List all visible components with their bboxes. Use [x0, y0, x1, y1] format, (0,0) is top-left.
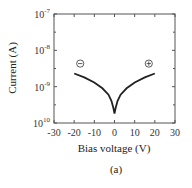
iv-chart: -30-20-100102030 10-710-810-91010 Bias v…: [0, 0, 192, 188]
x-tick-label: 10: [130, 127, 140, 138]
y-tick-label: 10-8: [34, 43, 50, 56]
bias-sign-annotations: [77, 60, 153, 67]
x-tick-label: -10: [88, 127, 101, 138]
iv-curve: [74, 74, 155, 114]
x-tick-label: 0: [112, 127, 117, 138]
figure-caption: (a): [110, 163, 123, 176]
x-tick-label: -30: [47, 127, 60, 138]
y-axis-title: Current (A): [6, 42, 19, 94]
x-axis-title: Bias voltage (V): [78, 142, 151, 155]
plus-circle-icon: [145, 60, 152, 67]
x-tick-label: 30: [170, 127, 180, 138]
y-tick-label: 10-7: [34, 7, 50, 20]
x-axis-ticks: -30-20-100102030: [47, 14, 180, 138]
plot-frame: [54, 14, 175, 123]
x-tick-label: -20: [67, 127, 80, 138]
y-tick-label: 10-9: [34, 80, 50, 93]
minus-circle-icon: [77, 60, 84, 67]
x-tick-label: 20: [150, 127, 160, 138]
